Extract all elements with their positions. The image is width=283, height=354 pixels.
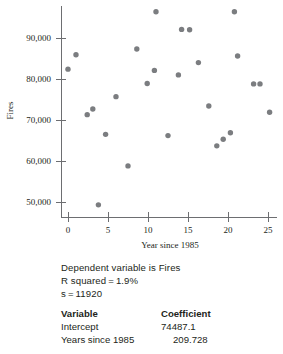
y-axis-tick-label: 80,000 [26,74,51,84]
data-point [145,81,150,86]
data-point [206,103,211,108]
data-point [165,133,170,138]
data-point [214,143,219,148]
s-value: 11920 [76,288,102,299]
regression-figure: 50,00060,00070,00080,00090,0000510152025… [0,0,283,354]
table-header-row: Variable Coefficient [61,307,279,320]
data-point [235,53,240,58]
s-line: s=11920 [61,287,279,300]
data-point [152,68,157,73]
data-point [221,137,226,142]
dependent-variable-line: Dependent variable is Fires [61,261,279,274]
rsquared-equals: = [106,275,116,286]
data-point [90,106,95,111]
coefficients-table: Variable Coefficient Intercept 74487.1 Y… [61,307,279,347]
data-point [267,110,272,115]
data-point [103,132,108,137]
x-axis-tick-label: 0 [66,225,71,235]
scatter-plot: 50,00060,00070,00080,00090,0000510152025… [0,0,283,250]
data-point [65,66,70,71]
y-axis-tick-label: 70,000 [26,115,51,125]
x-axis-tick-label: 5 [106,225,111,235]
x-axis-tick-label: 15 [184,225,194,235]
y-axis-tick-label: 60,000 [26,156,51,166]
cell-coefficient: 74487.1 [161,320,196,333]
x-axis-tick-label: 25 [264,225,274,235]
rsquared-value: 1.9% [116,275,138,286]
data-point [96,202,101,207]
data-point [176,72,181,77]
regression-output: Dependent variable is Fires R squared=1.… [61,261,279,347]
rsquared-line: R squared=1.9% [61,274,279,287]
data-point [179,27,184,32]
y-axis-tick-label: 50,000 [26,197,51,207]
data-point [153,9,158,14]
data-point [257,81,262,86]
column-header-variable: Variable [61,307,161,320]
data-point [85,112,90,117]
data-point [232,9,237,14]
data-point [113,94,118,99]
cell-coefficient: 209.728 [161,333,208,346]
cell-variable: Intercept [61,320,161,333]
y-axis-title: Fires [5,101,15,119]
data-point [228,130,233,135]
cell-variable: Years since 1985 [61,333,161,346]
data-point [125,163,130,168]
rsquared-label: R squared [61,275,106,286]
data-point [134,46,139,51]
s-equals: = [66,288,76,299]
column-header-coefficient: Coefficient [161,307,211,320]
x-axis-title: Year since 1985 [141,240,199,250]
scatter-plot-svg: 50,00060,00070,00080,00090,0000510152025… [0,0,283,250]
data-point [196,60,201,65]
table-row: Intercept 74487.1 [61,320,279,333]
x-axis-tick-label: 20 [224,225,234,235]
x-axis-tick-label: 10 [144,225,154,235]
table-row: Years since 1985 209.728 [61,333,279,346]
data-point [73,52,78,57]
data-point [187,27,192,32]
data-point [251,81,256,86]
y-axis-tick-label: 90,000 [26,33,51,43]
